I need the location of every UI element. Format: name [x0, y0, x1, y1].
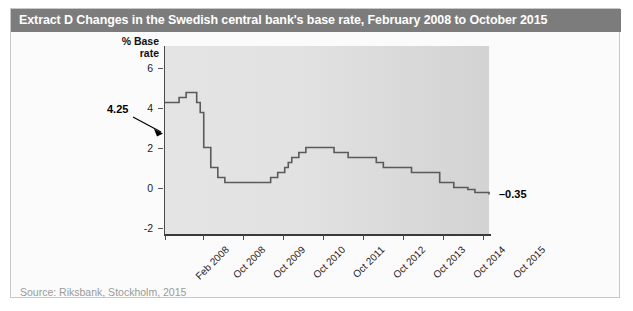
y-tick-label-4: 4 — [127, 102, 153, 114]
y-axis-line — [164, 46, 166, 235]
y-tick-mark-2 — [158, 148, 163, 149]
x-tick-label-feb-2008: Feb 2008 — [193, 244, 231, 282]
x-tick-mark-5 — [363, 235, 364, 240]
arrow-head — [154, 129, 163, 137]
y-tick-mark-neg2 — [158, 228, 163, 229]
x-tick-label-oct-2012: Oct 2012 — [391, 244, 427, 280]
x-tick-label-oct-2010: Oct 2010 — [311, 244, 347, 280]
x-tick-label-oct-2008: Oct 2008 — [231, 244, 267, 280]
chart-figure: Extract D Changes in the Swedish central… — [10, 8, 620, 298]
plot-background — [165, 46, 489, 234]
x-tick-label-oct-2009: Oct 2009 — [271, 244, 307, 280]
x-tick-mark-3 — [283, 235, 284, 240]
x-tick-label-oct-2015: Oct 2015 — [511, 244, 547, 280]
y-tick-label-6: 6 — [127, 62, 153, 74]
plot-region: % Base rate 6 4 2 0 -2 Feb 2008 Oct 2008… — [11, 32, 621, 299]
y-tick-mark-0 — [158, 188, 163, 189]
annotation-label-4-25: 4.25 — [107, 103, 128, 115]
y-axis-tick-labels: 6 4 2 0 -2 — [123, 32, 153, 242]
x-tick-mark-6 — [403, 235, 404, 240]
x-tick-label-oct-2013: Oct 2013 — [431, 244, 467, 280]
x-tick-label-oct-2011: Oct 2011 — [351, 244, 387, 280]
x-tick-label-oct-2014: Oct 2014 — [471, 244, 507, 280]
y-tick-label-neg2: -2 — [127, 222, 153, 234]
x-tick-mark-7 — [443, 235, 444, 240]
x-tick-mark-4 — [323, 235, 324, 240]
y-tick-label-2: 2 — [127, 142, 153, 154]
chart-title-bar: Extract D Changes in the Swedish central… — [11, 9, 621, 32]
x-tick-mark-0 — [165, 235, 166, 240]
y-tick-mark-4 — [158, 108, 163, 109]
y-tick-label-0: 0 — [127, 182, 153, 194]
x-axis-line — [164, 234, 491, 236]
x-tick-mark-1 — [203, 235, 204, 240]
source-note: Source: Riksbank, Stockholm, 2015 — [20, 286, 186, 298]
page-title: Extract D Changes in the Swedish central… — [19, 13, 547, 27]
y-tick-mark-6 — [158, 68, 163, 69]
x-tick-mark-2 — [243, 235, 244, 240]
annotation-label-neg-0-35: –0.35 — [499, 188, 527, 200]
x-tick-mark-8 — [483, 235, 484, 240]
